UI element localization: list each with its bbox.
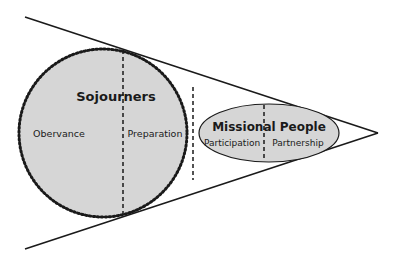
funnel-diagram: Sojourners Obervance Preparation Mission… — [0, 0, 397, 267]
preparation-label: Preparation — [128, 128, 183, 139]
sojourners-title: Sojourners — [76, 89, 156, 104]
missional-people-title: Missional People — [212, 120, 326, 134]
obervance-label: Obervance — [33, 128, 85, 139]
partnership-label: Partnership — [272, 138, 324, 148]
participation-label: Participation — [204, 138, 260, 148]
